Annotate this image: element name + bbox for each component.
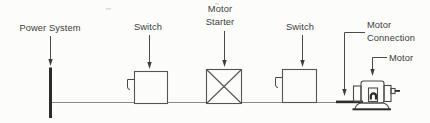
switch-1: Switch <box>128 22 168 104</box>
motor-icon <box>353 81 401 110</box>
switch-2-label: Switch <box>286 22 314 32</box>
motor-label: Motor <box>389 53 413 63</box>
switch-1-arrow <box>147 35 151 69</box>
motor-starter-box-icon <box>207 70 242 104</box>
motor-connection-label-line2: Connection <box>367 33 415 43</box>
switch-2-arrow <box>300 35 304 67</box>
power-system: Power System <box>19 23 80 118</box>
motor-starter-arrow <box>222 31 226 67</box>
bus-bar-icon <box>49 68 52 119</box>
power-system-label: Power System <box>19 23 80 33</box>
switch-2-handle-icon <box>276 78 283 88</box>
motor-connection-label-line1: Motor <box>367 20 391 30</box>
power-system-arrow <box>48 36 52 66</box>
motor: Motor <box>353 53 414 110</box>
motor-arrow <box>370 58 387 77</box>
scan-artifact <box>106 8 111 10</box>
switch-2-box-icon <box>283 70 317 103</box>
motor-starter-label-line1: Motor <box>208 4 232 14</box>
switch-1-box-icon <box>135 72 168 104</box>
switch-2: Switch <box>276 22 317 103</box>
one-line-power-diagram: Power System Switch Motor Starter <box>0 0 430 123</box>
switch-1-handle-icon <box>128 80 135 90</box>
switch-1-label: Switch <box>134 22 162 32</box>
motor-starter: Motor Starter <box>206 4 242 104</box>
motor-starter-label-line2: Starter <box>206 17 235 27</box>
diagram-svg: Power System Switch Motor Starter <box>0 0 430 123</box>
